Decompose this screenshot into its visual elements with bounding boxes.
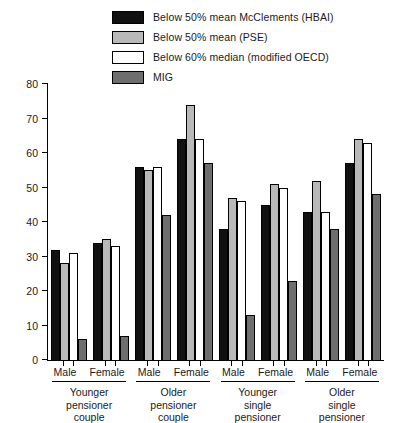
- gender-labels: MaleFemale: [300, 366, 384, 380]
- bars-layer: [48, 84, 384, 360]
- group-rule: [221, 381, 295, 382]
- gender-labels: MaleFemale: [131, 366, 215, 380]
- bar-group: [132, 84, 216, 360]
- bar: [195, 139, 204, 360]
- bar: [345, 163, 354, 360]
- bar: [372, 194, 381, 360]
- legend-swatch-mig: [112, 71, 144, 84]
- legend-item: Below 60% median (modified OECD): [112, 48, 392, 66]
- x-axis-group: MaleFemaleYounger pensioner couple: [47, 366, 131, 423]
- gender-label: Female: [174, 366, 209, 380]
- bar: [288, 281, 297, 360]
- y-axis-tick-label: 40: [26, 216, 38, 228]
- gender-labels: MaleFemale: [216, 366, 300, 380]
- bar: [204, 163, 213, 360]
- legend-item: Below 50% mean McClements (HBAI): [112, 8, 392, 26]
- plot-area: 01020304050607080: [47, 84, 384, 361]
- bar: [135, 167, 144, 360]
- group-title: Younger pensioner couple: [66, 386, 112, 423]
- bar-group: [48, 84, 132, 360]
- legend-item: Below 50% mean (PSE): [112, 28, 392, 46]
- group-rule: [305, 381, 379, 382]
- bar: [162, 215, 171, 360]
- bar: [111, 246, 120, 360]
- gender-label: Female: [258, 366, 293, 380]
- bar: [51, 250, 60, 360]
- bar: [102, 239, 111, 360]
- group-rule: [52, 381, 126, 382]
- y-axis-tick-label: 20: [26, 285, 38, 297]
- group-title: Younger single pensioner: [235, 386, 281, 423]
- bar: [186, 105, 195, 360]
- y-axis-tick-label: 50: [26, 182, 38, 194]
- bar: [312, 181, 321, 360]
- gender-label: Male: [138, 366, 161, 380]
- x-axis-labels: MaleFemaleYounger pensioner coupleMaleFe…: [47, 366, 384, 423]
- bar: [354, 139, 363, 360]
- gender-labels: MaleFemale: [47, 366, 131, 380]
- y-axis-tick-label: 0: [32, 354, 38, 366]
- bar: [246, 315, 255, 360]
- x-axis-group: MaleFemaleYounger single pensioner: [216, 366, 300, 423]
- bar-subgroup-male: [48, 84, 90, 360]
- y-axis-tick-label: 60: [26, 147, 38, 159]
- y-axis-tick-label: 30: [26, 251, 38, 263]
- bar-subgroup-female: [342, 84, 384, 360]
- bar-subgroup-female: [90, 84, 132, 360]
- gender-label: Male: [306, 366, 329, 380]
- bar: [270, 184, 279, 360]
- bar: [69, 253, 78, 360]
- x-axis-group: MaleFemaleOlder pensioner couple: [131, 366, 215, 423]
- bar: [261, 205, 270, 360]
- bar: [144, 170, 153, 360]
- legend-label: Below 50% mean (PSE): [153, 31, 268, 44]
- legend-swatch-oecd: [112, 51, 144, 64]
- bar: [219, 229, 228, 360]
- bar: [153, 167, 162, 360]
- bar: [93, 243, 102, 360]
- legend-label: MIG: [153, 71, 173, 84]
- legend-label: Below 60% median (modified OECD): [153, 51, 329, 64]
- legend-swatch-pse: [112, 31, 144, 44]
- bar-subgroup-male: [216, 84, 258, 360]
- bar: [120, 336, 129, 360]
- bar-chart: Below 50% mean McClements (HBAI)Below 50…: [0, 0, 396, 423]
- bar: [303, 212, 312, 360]
- legend-label: Below 50% mean McClements (HBAI): [153, 11, 334, 24]
- bar: [237, 201, 246, 360]
- bar: [321, 212, 330, 360]
- y-axis-tick-label: 70: [26, 113, 38, 125]
- bar: [279, 188, 288, 361]
- bar-group: [300, 84, 384, 360]
- y-axis-tick-label: 10: [26, 320, 38, 332]
- bar: [330, 229, 339, 360]
- gender-label: Male: [222, 366, 245, 380]
- gender-label: Male: [54, 366, 77, 380]
- bar: [60, 263, 69, 360]
- legend-swatch-hbai: [112, 11, 144, 24]
- group-title: Older single pensioner: [319, 386, 365, 423]
- bar-subgroup-female: [174, 84, 216, 360]
- bar: [363, 143, 372, 360]
- bar-subgroup-male: [132, 84, 174, 360]
- group-rule: [136, 381, 210, 382]
- bar: [228, 198, 237, 360]
- group-title: Older pensioner couple: [150, 386, 196, 423]
- gender-label: Female: [342, 366, 377, 380]
- y-axis-tick-label: 80: [26, 78, 38, 90]
- bar-group: [216, 84, 300, 360]
- chart-legend: Below 50% mean McClements (HBAI)Below 50…: [112, 8, 392, 88]
- bar-subgroup-female: [258, 84, 300, 360]
- bar: [177, 139, 186, 360]
- bar: [78, 339, 87, 360]
- x-axis-group: MaleFemaleOlder single pensioner: [300, 366, 384, 423]
- gender-label: Female: [90, 366, 125, 380]
- bar-subgroup-male: [300, 84, 342, 360]
